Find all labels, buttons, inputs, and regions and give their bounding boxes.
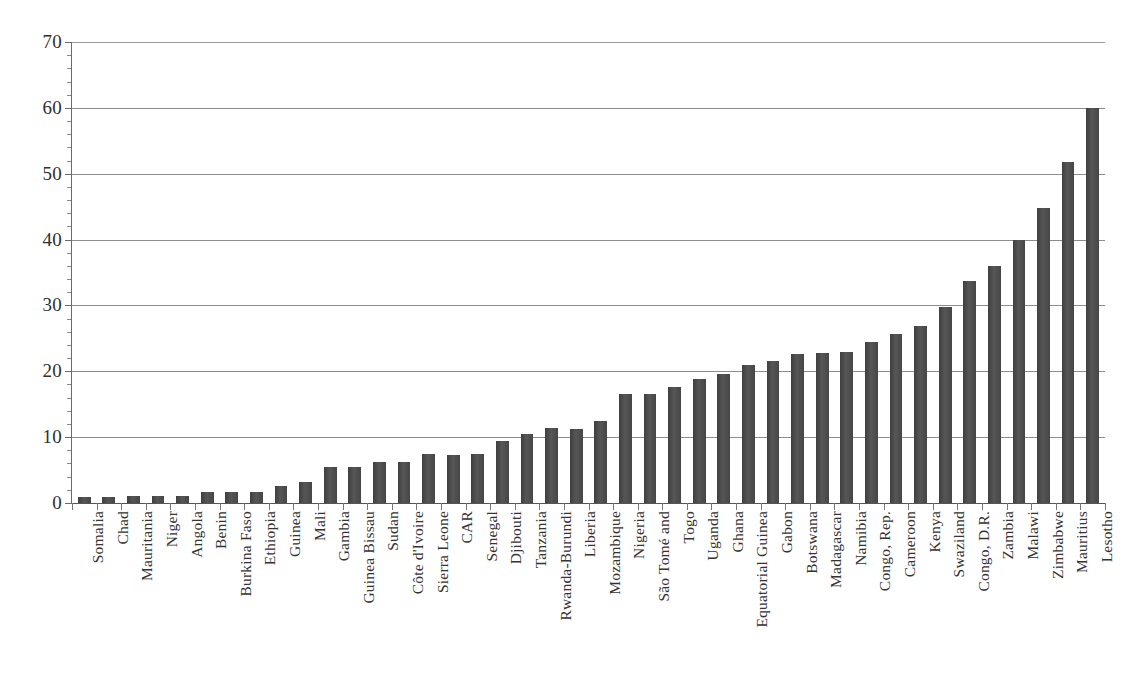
bar xyxy=(939,307,952,503)
x-tick xyxy=(810,503,811,510)
y-tick-label-10: 10 xyxy=(10,427,62,446)
x-tick xyxy=(121,503,122,510)
x-tick xyxy=(72,503,73,510)
bar xyxy=(1037,208,1050,503)
x-tick-label: Equatorial Guinea xyxy=(754,511,770,628)
x-tick-label-wrap: Ethiopia xyxy=(262,511,263,512)
bars-layer xyxy=(72,42,1105,503)
bar xyxy=(422,454,435,503)
x-tick-label: Mauritius xyxy=(1074,511,1090,573)
x-tick xyxy=(908,503,909,510)
bar xyxy=(890,334,903,503)
x-tick-label: Benin xyxy=(213,511,229,549)
bar xyxy=(521,434,534,503)
x-tick-label-wrap: Niger xyxy=(164,511,165,512)
x-tick-label: Gabon xyxy=(779,511,795,553)
bar xyxy=(840,352,853,503)
x-tick xyxy=(441,503,442,510)
x-tick xyxy=(539,503,540,510)
x-tick-label-wrap: Congo, D.R. xyxy=(976,511,977,512)
x-tick-label: Guinea Bissau xyxy=(361,511,377,604)
x-tick-label-wrap: Congo, Rep. xyxy=(877,511,878,512)
x-tick-label-wrap: Benin xyxy=(213,511,214,512)
x-tick-label: Mauritania xyxy=(139,511,155,581)
bar-chart-figure: 706050403020100 SomaliaChadMauritaniaNig… xyxy=(0,0,1135,673)
x-tick-label-wrap: Somalia xyxy=(90,511,91,512)
bar xyxy=(644,394,657,503)
bar xyxy=(717,374,730,503)
x-tick-label-wrap: Gambia xyxy=(336,511,337,512)
bar xyxy=(988,266,1001,503)
bar xyxy=(201,492,214,503)
x-tick xyxy=(1056,503,1057,510)
x-tick-label: Zambia xyxy=(1000,511,1016,560)
x-tick-label: Mozambique xyxy=(607,511,623,595)
x-tick-label: Liberia xyxy=(582,511,598,557)
x-tick xyxy=(515,503,516,510)
x-axis-ticks xyxy=(72,503,1105,511)
x-tick-label-wrap: Sierra Leone xyxy=(435,511,436,512)
x-tick-label-wrap: Nigeria xyxy=(631,511,632,512)
bar xyxy=(570,429,583,503)
x-tick-label-wrap: Swaziland xyxy=(951,511,952,512)
x-tick xyxy=(466,503,467,510)
bar xyxy=(496,441,509,503)
x-tick-label-wrap: Lesotho xyxy=(1099,511,1100,512)
x-tick-label-wrap: Burkina Faso xyxy=(238,511,239,512)
bar xyxy=(619,394,632,503)
x-tick-label-wrap: Malawi xyxy=(1025,511,1026,512)
x-tick-label: Congo, D.R. xyxy=(976,511,992,592)
x-tick xyxy=(343,503,344,510)
x-tick-label-wrap: Mauritius xyxy=(1074,511,1075,512)
x-tick-label: Namibia xyxy=(853,511,869,566)
x-tick xyxy=(392,503,393,510)
x-tick-label: Guinea xyxy=(287,511,303,557)
x-tick xyxy=(884,503,885,510)
x-tick xyxy=(146,503,147,510)
x-tick-label-wrap: Botswana xyxy=(804,511,805,512)
x-tick-label-wrap: Madagascar xyxy=(828,511,829,512)
x-tick-label: Rwanda-Burundi xyxy=(558,511,574,621)
x-tick xyxy=(687,503,688,510)
x-tick xyxy=(1031,503,1032,510)
x-tick-label: Sierra Leone xyxy=(435,511,451,593)
bar xyxy=(1013,240,1026,503)
bar xyxy=(693,379,706,503)
x-tick-label-wrap: Gabon xyxy=(779,511,780,512)
bar xyxy=(127,496,140,503)
x-tick xyxy=(589,503,590,510)
bar xyxy=(742,365,755,503)
bar xyxy=(275,486,288,503)
x-tick-label-wrap: Chad xyxy=(115,511,116,512)
x-tick-label-wrap: Côte d'Ivoire xyxy=(410,511,411,512)
x-tick-label-wrap: Zambia xyxy=(1000,511,1001,512)
x-tick-label: Senegal xyxy=(484,511,500,561)
x-tick-label-wrap: Mozambique xyxy=(607,511,608,512)
bar xyxy=(865,342,878,503)
x-tick xyxy=(638,503,639,510)
x-tick-label-wrap: Mali xyxy=(312,511,313,512)
x-tick-label: Botswana xyxy=(804,511,820,574)
bar xyxy=(816,353,829,503)
x-tick-label: São Tomé and xyxy=(656,511,672,602)
bar xyxy=(225,492,238,503)
x-tick-label: Burkina Faso xyxy=(238,511,254,597)
bar xyxy=(348,467,361,503)
x-tick-label-wrap: São Tomé and xyxy=(656,511,657,512)
x-tick-label-wrap: Djibouti xyxy=(508,511,509,512)
bar xyxy=(914,326,927,503)
x-tick-label: Ghana xyxy=(730,511,746,552)
x-tick-label-wrap: CAR xyxy=(459,511,460,512)
x-tick-label: Madagascar xyxy=(828,511,844,588)
x-tick-label: Somalia xyxy=(90,511,106,563)
x-tick-label-wrap: Cameroon xyxy=(902,511,903,512)
x-tick xyxy=(761,503,762,510)
bar xyxy=(176,496,189,503)
x-tick-label: CAR xyxy=(459,511,475,543)
bar xyxy=(447,455,460,503)
x-tick-label: Nigeria xyxy=(631,511,647,559)
x-tick-label: Togo xyxy=(681,511,697,543)
x-tick-label: Mali xyxy=(312,511,328,541)
x-tick-label-wrap: Ghana xyxy=(730,511,731,512)
x-tick xyxy=(662,503,663,510)
